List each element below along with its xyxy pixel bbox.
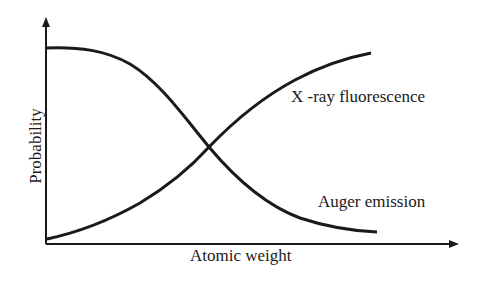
plot-area	[0, 0, 479, 287]
probability-vs-atomic-weight-diagram: Probability Atomic weight X -ray fluores…	[0, 0, 479, 287]
x-axis-arrow-icon	[449, 240, 459, 248]
y-axis-label: Probability	[27, 108, 44, 184]
x-axis-label: Atomic weight	[190, 247, 292, 264]
xray-fluorescence-curve	[47, 53, 371, 239]
auger-emission-label: Auger emission	[318, 193, 425, 210]
y-axis-arrow-icon	[42, 17, 50, 27]
xray-fluorescence-label: X -ray fluorescence	[291, 88, 425, 105]
